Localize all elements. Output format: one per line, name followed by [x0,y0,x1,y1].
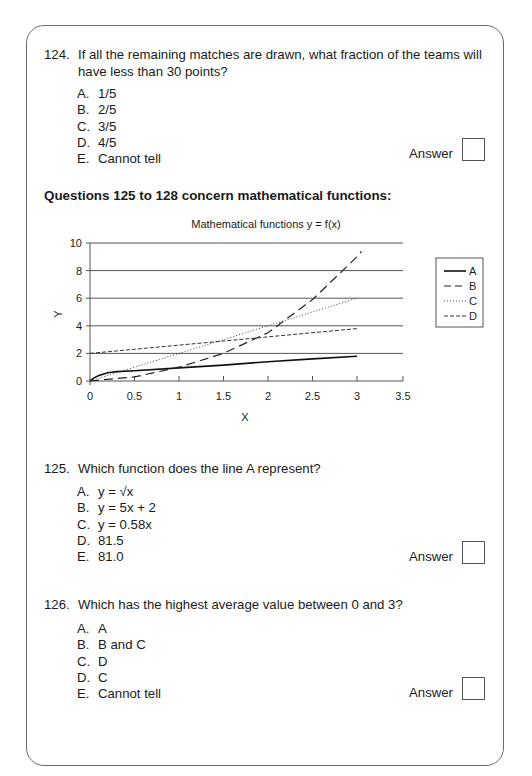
question-text: Which has the highest average value betw… [78,596,498,613]
legend-c: C [469,295,477,307]
svg-text:4: 4 [76,320,82,332]
svg-text:2: 2 [76,347,82,359]
answer-label: Answer [409,549,453,564]
x-axis-title: X [241,411,249,423]
svg-text:2.5: 2.5 [305,390,320,402]
question-text: Which function does the line A represent… [78,460,498,477]
answer-label: Answer [409,685,453,700]
svg-text:10: 10 [70,237,82,249]
legend-d: D [469,310,477,322]
series-d-line [90,329,357,354]
svg-text:1: 1 [176,390,182,402]
svg-text:2: 2 [265,390,271,402]
svg-text:1.5: 1.5 [216,390,231,402]
y-axis-labels: 10 8 6 4 2 0 [70,237,82,387]
svg-text:0.5: 0.5 [127,390,142,402]
answer-box[interactable] [462,541,485,564]
svg-text:0: 0 [87,390,93,402]
question-number: 126. [44,596,70,613]
legend-a: A [469,265,477,277]
x-axis-labels: 0 0.5 1 1.5 2 2.5 3 3.5 [87,390,411,402]
svg-text:0: 0 [76,375,82,387]
answer-box[interactable] [462,677,485,700]
svg-text:6: 6 [76,292,82,304]
series-c-line [90,298,357,381]
svg-text:3: 3 [354,390,360,402]
svg-text:3.5: 3.5 [395,390,410,402]
y-axis-title: Y [52,310,64,318]
legend: A B C D [436,258,483,327]
legend-b: B [469,280,476,292]
question-number: 125. [44,460,70,477]
svg-text:8: 8 [76,265,82,277]
